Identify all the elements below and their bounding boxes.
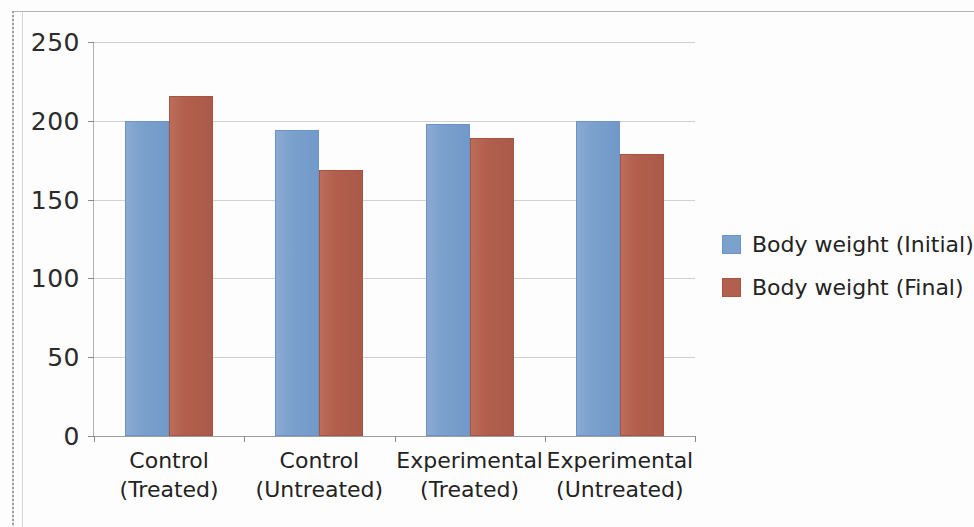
bar-final[interactable] xyxy=(169,96,213,436)
y-axis-tick-labels: 050100150200250 xyxy=(0,42,88,436)
x-tick xyxy=(695,436,696,442)
legend-swatch-icon xyxy=(722,278,741,297)
category-label-line: Control xyxy=(120,446,219,475)
category-label-line: Experimental xyxy=(547,446,694,475)
bar-group xyxy=(244,42,394,436)
x-tick xyxy=(545,436,546,442)
bar-initial[interactable] xyxy=(576,121,620,436)
category-label-line: (Treated) xyxy=(120,475,219,504)
legend-item[interactable]: Body weight (Initial) xyxy=(722,232,972,257)
x-axis-category-label: Control(Treated) xyxy=(120,446,219,504)
bar-group xyxy=(94,42,244,436)
category-label-line: (Untreated) xyxy=(547,475,694,504)
bar-initial[interactable] xyxy=(426,124,470,436)
chart-legend: Body weight (Initial)Body weight (Final) xyxy=(722,232,972,318)
bar-final[interactable] xyxy=(620,154,664,436)
bar-chart-plot-area xyxy=(94,42,695,436)
category-label-line: Experimental xyxy=(396,446,543,475)
y-axis-label-150: 150 xyxy=(31,185,80,214)
bar-initial[interactable] xyxy=(125,121,169,436)
x-axis-category-label: Control(Untreated) xyxy=(256,446,384,504)
legend-item-label: Body weight (Initial) xyxy=(752,232,974,257)
category-label-line: Control xyxy=(256,446,384,475)
x-tick xyxy=(244,436,245,442)
y-axis-label-250: 250 xyxy=(31,28,80,57)
y-axis-label-100: 100 xyxy=(31,264,80,293)
x-tick xyxy=(94,436,95,442)
legend-item[interactable]: Body weight (Final) xyxy=(722,275,972,300)
x-axis-category-labels: Control(Treated)Control(Untreated)Experi… xyxy=(94,446,695,518)
bar-initial[interactable] xyxy=(275,130,319,436)
y-axis-label-50: 50 xyxy=(47,343,80,372)
x-tick xyxy=(395,436,396,442)
bar-final[interactable] xyxy=(470,138,514,436)
bar-group xyxy=(545,42,695,436)
scan-border-top xyxy=(14,11,974,12)
y-axis-label-0: 0 xyxy=(64,422,80,451)
legend-item-label: Body weight (Final) xyxy=(752,275,964,300)
y-axis-label-200: 200 xyxy=(31,106,80,135)
category-label-line: (Untreated) xyxy=(256,475,384,504)
category-label-line: (Treated) xyxy=(396,475,543,504)
x-axis-category-label: Experimental(Untreated) xyxy=(547,446,694,504)
bar-final[interactable] xyxy=(319,170,363,436)
x-axis-category-label: Experimental(Treated) xyxy=(396,446,543,504)
legend-swatch-icon xyxy=(722,235,741,254)
bar-group xyxy=(395,42,545,436)
scanned-page: 050100150200250 Control(Treated)Control(… xyxy=(0,0,974,527)
